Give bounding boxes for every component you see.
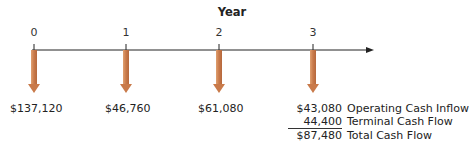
cash-flow-arrow-down-icon-year-3 — [307, 50, 319, 93]
total-cash-flow-amount: $87,480 — [288, 129, 342, 142]
cash-flow-arrow-down-icon-year-0 — [28, 50, 40, 93]
timeline-axis — [32, 44, 374, 53]
operating-cash-inflow-row: $43,080Operating Cash Inflow — [288, 102, 469, 115]
terminal-cash-flow-row: 44,400Terminal Cash Flow — [288, 115, 469, 129]
cash-flow-arrow-down-icon-year-2 — [213, 50, 225, 93]
operating-cash-inflow-label: Operating Cash Inflow — [342, 102, 469, 115]
terminal-cash-flow-amount: 44,400 — [288, 115, 342, 129]
total-cash-flow-row: $87,480Total Cash Flow — [288, 129, 469, 142]
cash-flow-arrow-down-icon-year-1 — [120, 50, 132, 93]
cash-flow-value-year-1: $46,760 — [105, 102, 151, 115]
terminal-cash-flow-label: Terminal Cash Flow — [342, 115, 453, 128]
cash-flow-value-year-0: $137,120 — [10, 102, 63, 115]
year-3-breakdown: $43,080Operating Cash Inflow 44,400Termi… — [288, 102, 469, 142]
cash-flow-value-year-2: $61,080 — [198, 102, 244, 115]
total-cash-flow-label: Total Cash Flow — [342, 129, 432, 142]
operating-cash-inflow-amount: $43,080 — [288, 102, 342, 115]
